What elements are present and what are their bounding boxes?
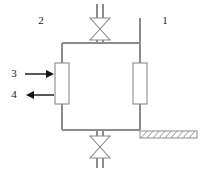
right-column-shell[interactable] [133,63,147,104]
top-valve[interactable] [90,4,110,43]
bottom-valve-lower-wedge[interactable] [90,147,110,158]
bottom-valve-upper-wedge[interactable] [90,136,110,147]
left-column[interactable] [55,63,69,104]
left-column-shell[interactable] [55,63,69,104]
right-column[interactable] [133,63,147,104]
inlet-arrow-head [46,70,54,78]
inlet-stream-arrow [25,70,54,78]
top-valve-lower-wedge[interactable] [90,29,110,40]
outlet-arrow-head [26,91,34,99]
label-outlet-stream: 4 [11,88,17,100]
outlet-stream-arrow [26,91,54,99]
process-flow-diagram: 2 1 3 4 [0,0,207,171]
bottom-valve[interactable] [90,130,110,168]
ground-support [140,131,197,138]
label-column-right: 1 [162,14,168,26]
pid-canvas: 2 1 3 4 [0,0,207,171]
label-column-left: 2 [38,14,44,26]
label-inlet-stream: 3 [11,67,17,79]
top-valve-upper-wedge[interactable] [90,18,110,29]
